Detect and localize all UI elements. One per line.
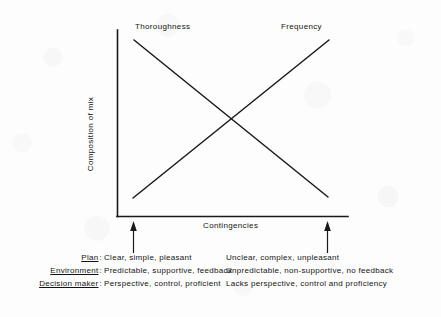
curve-label-thoroughness: Thoroughness — [135, 22, 190, 31]
legend-key-cell: Plan: — [0, 253, 104, 262]
legend-row: Plan: Clear, simple, pleasant Unclear, c… — [0, 253, 441, 266]
figure-container: Thoroughness Frequency Contingencies Com… — [0, 0, 441, 317]
legend-low-contingency-value: Perspective, control, proficient — [104, 279, 226, 288]
legend-high-contingency-value: Unpredictable, non-supportive, no feedba… — [226, 266, 393, 275]
high-contingency-arrow-icon — [324, 221, 331, 253]
legend-table: Plan: Clear, simple, pleasant Unclear, c… — [0, 253, 441, 292]
curve-label-frequency: Frequency — [281, 22, 322, 31]
y-axis-label: Composition of mix — [86, 97, 95, 171]
legend-key-label: Decision maker — [39, 279, 98, 288]
x-axis-label: Contingencies — [203, 221, 258, 230]
legend-key-cell: Decision maker: — [0, 279, 104, 288]
legend-high-contingency-value: Unclear, complex, unpleasant — [226, 253, 339, 262]
legend-low-contingency-value: Clear, simple, pleasant — [104, 253, 226, 262]
legend-high-contingency-value: Lacks perspective, control and proficien… — [226, 279, 387, 288]
legend-key-cell: Environment: — [0, 266, 104, 275]
legend-row: Decision maker: Perspective, control, pr… — [0, 279, 441, 292]
low-contingency-arrow-icon — [130, 221, 137, 253]
legend-row: Environment: Predictable, supportive, fe… — [0, 266, 441, 279]
legend-low-contingency-value: Predictable, supportive, feedback — [104, 266, 226, 275]
legend-key-label: Plan — [81, 253, 98, 262]
legend-key-label: Environment — [50, 266, 98, 275]
